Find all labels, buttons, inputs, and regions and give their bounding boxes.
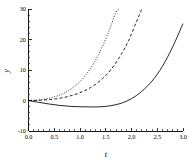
dotted-curve (29, 9, 121, 101)
x-tick-label: 0.0 (25, 133, 33, 140)
x-tick-label: 2.0 (128, 133, 136, 140)
x-axis-ticks (29, 128, 184, 131)
chart-figure: 3020100-10 0.00.51.01.52.02.53.0 y t (0, 0, 193, 162)
y-axis-tick-labels: 3020100-10 (18, 5, 26, 134)
data-curves (29, 9, 184, 107)
x-tick-label: 1.0 (76, 133, 84, 140)
y-tick-label: 30 (20, 5, 26, 12)
line-chart: 3020100-10 0.00.51.01.52.02.53.0 y t (0, 0, 193, 162)
x-axis-tick-labels: 0.00.51.01.52.02.53.0 (25, 133, 187, 140)
y-axis-title: y (2, 69, 11, 74)
x-axis-title: t (105, 150, 108, 159)
y-tick-label: 0 (23, 97, 26, 104)
x-tick-label: 0.5 (50, 133, 58, 140)
y-tick-label: 10 (20, 66, 26, 73)
x-tick-label: 3.0 (179, 133, 187, 140)
y-axis-ticks (29, 9, 32, 131)
dashed-curve (29, 9, 142, 101)
x-tick-label: 1.5 (102, 133, 110, 140)
solid-curve (29, 24, 184, 107)
y-tick-label: 20 (20, 36, 26, 43)
x-tick-label: 2.5 (153, 133, 161, 140)
